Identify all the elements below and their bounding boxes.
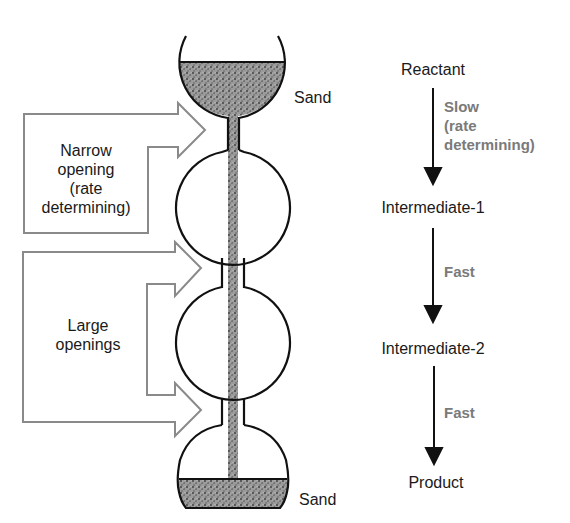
- callout-narrow-line1: Narrow: [26, 141, 146, 160]
- species-reactant: Reactant: [373, 60, 493, 80]
- top-sand-label: Sand: [294, 88, 331, 108]
- step-1-rate: Slow (rate determining): [444, 97, 535, 154]
- step-2-rate: Fast: [444, 262, 475, 281]
- callout-narrow-line2: opening: [26, 160, 146, 179]
- mechanism-arrows: [425, 88, 442, 464]
- callout-narrow-line3: (rate: [26, 179, 146, 198]
- step-3-rate: Fast: [444, 403, 475, 422]
- species-product: Product: [376, 473, 496, 493]
- sand-stream: [228, 116, 238, 480]
- callout-large-line2: openings: [32, 335, 144, 354]
- species-intermediate-1: Intermediate-1: [360, 198, 506, 218]
- step-1-rate-line3: determining): [444, 135, 535, 154]
- species-intermediate-2: Intermediate-2: [360, 339, 506, 359]
- narrow-opening-callout: Narrow opening (rate determining): [26, 141, 146, 217]
- top-sand: [179, 62, 285, 116]
- step-1-rate-line2: (rate: [444, 116, 535, 135]
- bottom-sand-label: Sand: [299, 490, 336, 510]
- bottom-sand: [179, 479, 287, 508]
- callout-narrow-line4: determining): [26, 198, 146, 217]
- step-1-rate-line1: Slow: [444, 97, 535, 116]
- callout-large-line1: Large: [32, 316, 144, 335]
- large-openings-callout: Large openings: [32, 316, 144, 354]
